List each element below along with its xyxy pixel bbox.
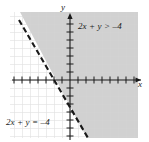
inequality-label: 2x + y > –4 [78, 22, 122, 31]
boundary-equation-label: 2x + y = –4 [6, 118, 50, 127]
x-axis-label: x [138, 80, 142, 89]
inequality-graph-figure: 2x + y > –4 2x + y = –4 y x [0, 0, 149, 142]
y-axis-label: y [61, 3, 65, 12]
